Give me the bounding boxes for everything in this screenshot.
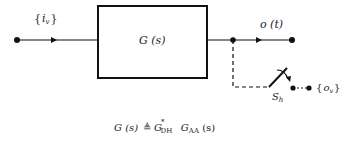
definition-equation: G (s) ≜ G*DH GAA (s): [114, 118, 215, 135]
input-arrow-icon: [51, 37, 57, 43]
sampler-branch-line: [233, 40, 269, 87]
block-label: G (s): [139, 34, 166, 47]
sampled-output-label: {ov}: [316, 82, 340, 95]
sampler-label: Sh: [272, 91, 283, 104]
input-label: {iv}: [34, 12, 58, 26]
sampler-arrowhead-icon: [286, 76, 291, 82]
output-node: [289, 37, 295, 43]
sampler-switch-icon: [269, 68, 287, 87]
output-arrow-icon: [256, 37, 262, 43]
output-label: o (t): [260, 18, 283, 31]
block-diagram: {iv} G (s) o (t) Sh {ov} G (s) ≜ G*DH GA…: [0, 0, 348, 143]
sampled-output-node: [306, 85, 311, 90]
